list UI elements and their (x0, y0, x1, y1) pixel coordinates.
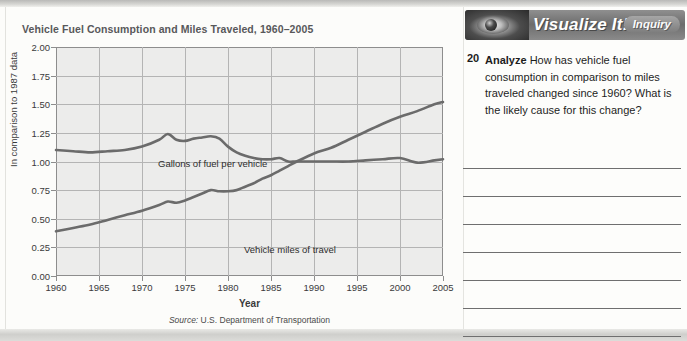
x-tick-mark (228, 276, 229, 281)
question-block: 20 Analyze How has vehicle fuel consumpt… (467, 52, 681, 118)
x-tick-mark (271, 276, 272, 281)
answer-line[interactable] (463, 141, 681, 169)
y-tick-label: 0.50 (32, 213, 51, 224)
source-label: Source: (169, 315, 198, 325)
x-tick-mark (99, 276, 100, 281)
source-value: U.S. Department of Transportation (198, 315, 330, 325)
answer-line[interactable] (463, 253, 681, 281)
question-body: Analyze How has vehicle fuel consumption… (485, 52, 681, 118)
x-tick-mark (185, 276, 186, 281)
x-tick-label: 2000 (389, 282, 410, 293)
x-tick-mark (314, 276, 315, 281)
answer-line[interactable] (463, 225, 681, 253)
figure-panel: Vehicle Fuel Consumption and Miles Trave… (0, 7, 462, 329)
answer-line[interactable] (463, 197, 681, 225)
series-label-fuel: Gallons of fuel per vehicle (158, 158, 267, 169)
inquiry-panel: Visualize It! Inquiry 20 Analyze How has… (463, 7, 687, 329)
question-verb: Analyze (485, 54, 527, 66)
figure-title: Vehicle Fuel Consumption and Miles Trave… (22, 23, 313, 35)
plot-area: 0.000.250.500.751.001.251.501.752.00 196… (56, 47, 443, 276)
inquiry-badge: Inquiry (624, 16, 680, 33)
x-tick-mark (357, 276, 358, 281)
answer-line[interactable] (463, 309, 681, 337)
x-tick-mark (142, 276, 143, 281)
y-tick-label: 2.00 (32, 42, 51, 53)
x-tick-label: 1960 (45, 282, 66, 293)
x-tick-label: 1965 (88, 282, 109, 293)
series-label-miles: Vehicle miles of travel (244, 244, 336, 255)
x-axis-title: Year (56, 298, 443, 309)
answer-line[interactable] (463, 281, 681, 309)
x-tick-label: 1975 (174, 282, 195, 293)
x-tick-label: 1985 (260, 282, 281, 293)
eye-icon (465, 10, 529, 40)
eye-pupil (485, 19, 497, 31)
banner-title: Visualize It! (533, 15, 629, 35)
y-tick-label: 1.25 (32, 127, 51, 138)
question-number: 20 (467, 52, 479, 64)
x-tick-label: 1970 (131, 282, 152, 293)
y-tick-label: 0.75 (32, 185, 51, 196)
y-tick-label: 0.25 (32, 242, 51, 253)
source-note: Source: U.S. Department of Transportatio… (56, 315, 443, 325)
y-tick-label: 1.50 (32, 99, 51, 110)
y-tick-label: 0.00 (32, 271, 51, 282)
page-top-edge (0, 0, 687, 7)
y-tick-label: 1.00 (32, 156, 51, 167)
x-tick-mark (56, 276, 57, 281)
x-tick-label: 1990 (303, 282, 324, 293)
y-tick-label: 1.75 (32, 70, 51, 81)
visualize-it-banner: Visualize It! Inquiry (465, 10, 685, 40)
x-tick-mark (443, 276, 444, 281)
x-tick-label: 1980 (217, 282, 238, 293)
x-tick-label: 1995 (346, 282, 367, 293)
page-background: Vehicle Fuel Consumption and Miles Trave… (0, 0, 687, 341)
x-tick-mark (400, 276, 401, 281)
x-tick-label: 2005 (432, 282, 453, 293)
answer-lines[interactable] (463, 141, 687, 337)
y-axis-title: In comparison to 1987 data (8, 52, 19, 167)
answer-line[interactable] (463, 169, 681, 197)
